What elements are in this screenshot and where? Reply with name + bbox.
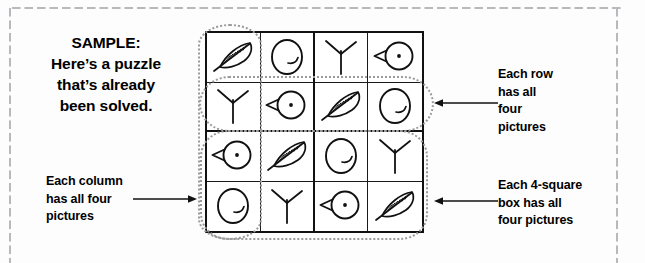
arrow-left-to-box xyxy=(434,194,500,208)
puzzle-cell-r2c2[interactable] xyxy=(261,83,315,133)
feather-icon xyxy=(318,87,364,125)
callout-column-line-3: pictures xyxy=(46,208,123,226)
puzzle-cell-r1c2[interactable] xyxy=(261,33,315,83)
bird-head-icon xyxy=(211,136,255,176)
page-border-dots-right xyxy=(615,6,619,263)
puzzle-cell-r4c2[interactable] xyxy=(261,182,315,232)
page-border-dots-top xyxy=(10,6,623,10)
puzzle-cell-r1c3[interactable] xyxy=(315,33,369,83)
puzzle-cell-r2c1[interactable] xyxy=(207,83,261,133)
callout-box-line-3: four pictures xyxy=(498,212,582,230)
bird-track-icon xyxy=(376,136,414,176)
sample-caption: SAMPLE: Here’s a puzzle that’s already b… xyxy=(16,32,196,116)
egg-icon xyxy=(322,136,360,176)
callout-row-line-1: Each row xyxy=(498,66,553,84)
callout-column: Each column has all four pictures xyxy=(46,173,123,226)
callout-column-line-1: Each column xyxy=(46,173,123,191)
egg-icon xyxy=(376,86,414,126)
bird-head-icon xyxy=(373,37,417,77)
puzzle-cell-r3c2[interactable] xyxy=(261,132,315,182)
callout-box: Each 4-square box has all four pictures xyxy=(498,177,582,230)
callout-row-line-3: four xyxy=(498,101,553,119)
page-border-dots-left xyxy=(8,6,12,263)
feather-icon xyxy=(264,137,310,175)
bird-head-icon xyxy=(319,186,363,226)
puzzle-cell-r2c4[interactable] xyxy=(368,83,422,133)
callout-column-line-2: has all four xyxy=(46,191,123,209)
callout-row-line-2: has all xyxy=(498,84,553,102)
puzzle-cell-r1c4[interactable] xyxy=(368,33,422,83)
puzzle-cell-r4c3[interactable] xyxy=(315,182,369,232)
sample-caption-line-3: that’s already xyxy=(16,74,196,95)
bird-track-icon xyxy=(214,86,252,126)
bird-track-icon xyxy=(322,37,360,77)
bird-head-icon xyxy=(265,86,309,126)
feather-icon xyxy=(210,38,256,76)
arrow-right-to-column xyxy=(131,192,197,206)
puzzle-grid[interactable] xyxy=(205,31,424,233)
sample-caption-line-4: been solved. xyxy=(16,95,196,116)
puzzle-cell-r2c3[interactable] xyxy=(315,83,369,133)
egg-icon xyxy=(214,186,252,226)
callout-row-line-4: pictures xyxy=(498,119,553,137)
puzzle-cell-r4c1[interactable] xyxy=(207,182,261,232)
sample-caption-line-2: Here’s a puzzle xyxy=(16,53,196,74)
puzzle-cell-r4c4[interactable] xyxy=(368,182,422,232)
callout-row: Each row has all four pictures xyxy=(498,66,553,136)
puzzle-cell-r3c1[interactable] xyxy=(207,132,261,182)
egg-icon xyxy=(268,37,306,77)
sample-caption-line-1: SAMPLE: xyxy=(16,32,196,53)
bird-track-icon xyxy=(268,186,306,226)
puzzle-cell-r3c3[interactable] xyxy=(315,132,369,182)
arrow-left-to-row xyxy=(434,96,500,110)
puzzle-cell-r1c1[interactable] xyxy=(207,33,261,83)
callout-box-line-2: box has all xyxy=(498,195,582,213)
puzzle-cell-r3c4[interactable] xyxy=(368,132,422,182)
callout-box-line-1: Each 4-square xyxy=(498,177,582,195)
feather-icon xyxy=(372,187,418,225)
page-canvas: SAMPLE: Here’s a puzzle that’s already b… xyxy=(0,0,645,263)
